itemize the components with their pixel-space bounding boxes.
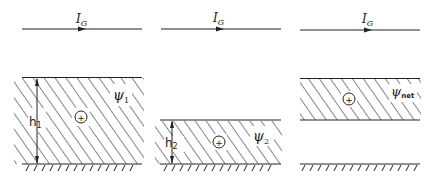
panel-2: IG h2 + ψ2	[155, 11, 282, 171]
current-wire: IG	[161, 11, 281, 32]
current-subscript: G	[81, 19, 88, 28]
charge-symbol: +	[343, 93, 355, 105]
height-label: h	[29, 115, 37, 129]
plus-icon: +	[345, 95, 353, 105]
charge-symbol: +	[213, 136, 225, 148]
ground-plane	[160, 164, 281, 171]
height-label: h	[165, 136, 173, 150]
plus-icon: +	[215, 138, 223, 148]
height-subscript: 2	[173, 142, 178, 151]
height-subscript: 1	[37, 121, 42, 130]
ground-plane	[300, 164, 420, 171]
current-subscript: G	[218, 18, 225, 27]
current-wire: IG	[300, 12, 420, 33]
panel-3: IG + ψnet	[300, 12, 421, 171]
ground-plane	[22, 164, 142, 171]
svg-text:IG: IG	[361, 12, 374, 28]
svg-text:IG: IG	[75, 12, 88, 28]
current-wire: IG	[22, 12, 142, 32]
plus-icon: +	[77, 113, 85, 123]
current-subscript: G	[367, 19, 374, 28]
arrow-right-icon	[364, 28, 372, 33]
flux-diagram: IG h1 +	[0, 0, 434, 184]
panel-1: IG h1 +	[12, 12, 144, 171]
svg-text:IG: IG	[212, 11, 225, 27]
charge-symbol: +	[75, 111, 87, 123]
arrow-right-icon	[216, 27, 224, 32]
